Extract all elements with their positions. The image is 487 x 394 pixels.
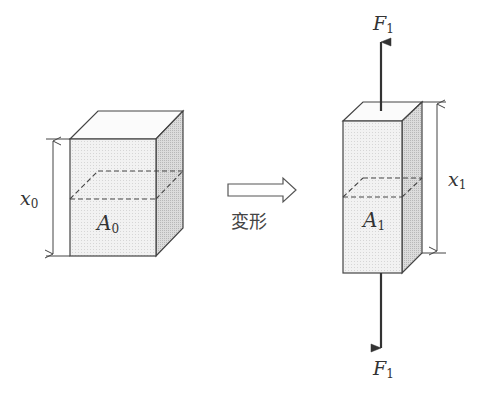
right-block: x1 A1 F1 F1 xyxy=(343,12,466,381)
force-bottom-label: F1 xyxy=(372,357,394,381)
hollow-arrow-icon xyxy=(228,178,296,202)
left-height-label: x0 xyxy=(20,187,38,211)
left-height-dimension xyxy=(46,139,70,256)
right-height-dimension xyxy=(422,102,446,253)
transition-arrow: 変形 xyxy=(228,178,296,232)
deformation-label: 変形 xyxy=(231,211,267,232)
right-height-label: x1 xyxy=(448,168,466,192)
right-block-side-face xyxy=(402,102,422,273)
left-block: x0 A0 xyxy=(20,111,183,256)
force-top-label: F1 xyxy=(372,12,394,36)
deformation-diagram: x0 A0 変形 x1 A1 F1 F1 xyxy=(0,0,487,394)
left-block-front-face xyxy=(70,139,156,256)
